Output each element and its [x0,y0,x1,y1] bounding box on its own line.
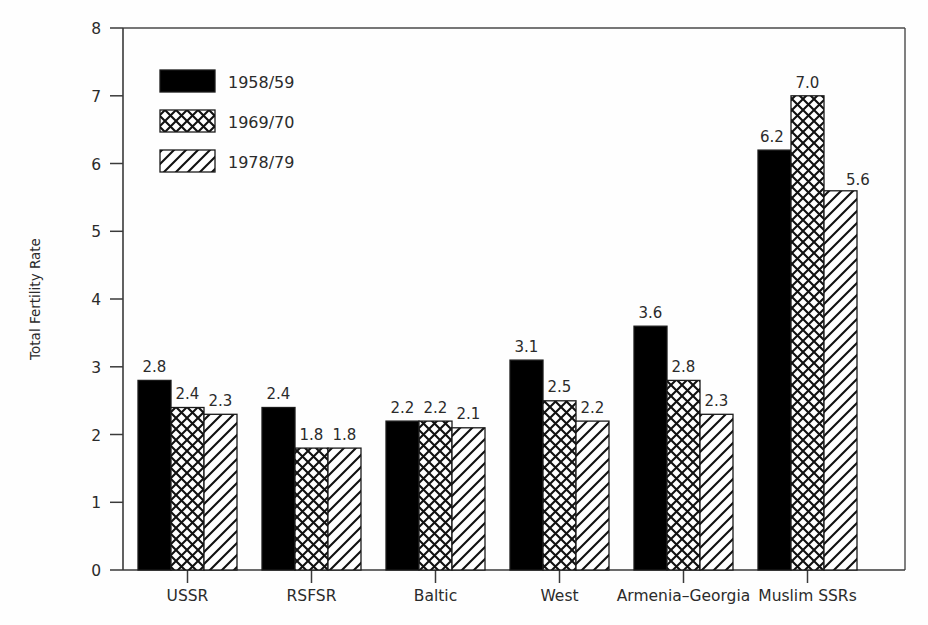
legend-swatch-1958-59 [160,70,215,92]
legend-label: 1969/70 [228,113,294,132]
legend-swatch-1969-70 [160,110,215,132]
y-tick-label: 5 [91,223,101,241]
bar-value-label: 6.2 [760,128,784,146]
y-tick-label: 3 [91,359,101,377]
legend-swatch-1978-79 [160,150,215,172]
legend-label: 1978/79 [228,153,294,172]
bar-1958-59[interactable] [510,360,543,570]
bar-1958-59[interactable] [386,421,419,570]
legend-item[interactable]: 1969/70 [160,110,294,132]
bar-value-label: 2.3 [705,392,729,410]
bar-1969-70[interactable] [543,401,576,570]
bar-1978-79[interactable] [700,414,733,570]
bar-value-label: 1.8 [333,426,357,444]
x-category-label: Muslim SSRs [758,587,856,605]
bar-value-label: 3.6 [639,304,663,322]
bar-1978-79[interactable] [576,421,609,570]
bar-1969-70[interactable] [667,380,700,570]
y-tick-label: 6 [91,156,101,174]
y-tick-label: 1 [91,494,101,512]
y-tick-label: 0 [91,562,101,580]
bar-1978-79[interactable] [824,191,857,570]
bar-value-label: 2.5 [548,378,572,396]
bar-1978-79[interactable] [328,448,361,570]
bar-1969-70[interactable] [419,421,452,570]
legend: 1958/59 1969/70 1978/79 [160,70,294,172]
y-tick-label: 2 [91,427,101,445]
bar-value-label: 3.1 [515,338,539,356]
bar-1969-70[interactable] [791,96,824,570]
y-tick-label: 4 [91,291,101,309]
x-category-label: Armenia–Georgia [617,587,751,605]
bar-1978-79[interactable] [204,414,237,570]
bar-1978-79[interactable] [452,428,485,570]
legend-item[interactable]: 1978/79 [160,150,294,172]
x-category-label: West [540,587,578,605]
y-axis-title: Total Fertility Rate [27,238,43,361]
bar-value-label: 2.2 [424,399,448,417]
fertility-rate-bar-chart: 8 7 6 5 4 3 2 1 0 Total Fertility Rate U… [0,0,928,625]
bar-value-label: 2.4 [176,385,200,403]
y-tick-label: 7 [91,88,101,106]
bar-1958-59[interactable] [262,408,295,571]
bar-value-label: 5.6 [846,171,870,189]
bar-value-label: 7.0 [796,74,820,92]
bar-value-label: 2.8 [143,358,167,376]
bar-1958-59[interactable] [758,150,791,570]
bar-value-label: 2.8 [672,358,696,376]
bar-1958-59[interactable] [138,380,171,570]
y-tick-label: 8 [91,20,101,38]
legend-item[interactable]: 1958/59 [160,70,294,92]
bar-value-label: 2.2 [391,399,415,417]
bar-1969-70[interactable] [295,448,328,570]
bar-1958-59[interactable] [634,326,667,570]
x-category-label: RSFSR [287,587,337,605]
bar-value-label: 2.2 [581,399,605,417]
bar-value-label: 2.1 [457,405,481,423]
bar-value-label: 2.3 [209,392,233,410]
legend-label: 1958/59 [228,73,294,92]
bar-1969-70[interactable] [171,408,204,571]
bar-value-label: 1.8 [300,426,324,444]
x-category-label: USSR [167,587,209,605]
x-category-label: Baltic [414,587,457,605]
bar-value-label: 2.4 [267,385,291,403]
chart-canvas: 8 7 6 5 4 3 2 1 0 Total Fertility Rate U… [0,0,928,625]
